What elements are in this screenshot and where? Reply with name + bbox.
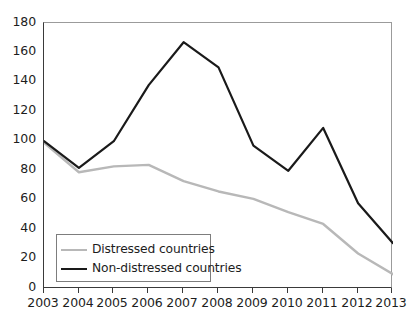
- y-tick-label: 20: [6, 251, 36, 264]
- y-tick-label: 140: [6, 74, 36, 87]
- x-tick-mark: [182, 288, 183, 293]
- x-tick-mark: [78, 288, 79, 293]
- x-tick-mark: [357, 288, 358, 293]
- series-line-non-distressed: [44, 42, 393, 243]
- x-tick-mark: [112, 288, 113, 293]
- x-tick-mark: [252, 288, 253, 293]
- chart-legend: Distressed countries Non-distressed coun…: [56, 234, 211, 282]
- x-tick-mark: [287, 288, 288, 293]
- x-tick-mark: [147, 288, 148, 293]
- legend-item-non-distressed: Non-distressed countries: [61, 259, 210, 278]
- y-axis: 180 160 140 120 100 80 60 40 20 0: [0, 0, 36, 324]
- legend-line-swatch-black-icon: [61, 268, 87, 270]
- y-tick-label: 40: [6, 222, 36, 235]
- y-tick-label: 0: [6, 281, 36, 294]
- y-tick-label: 180: [6, 16, 36, 29]
- y-tick-label: 60: [6, 192, 36, 205]
- x-tick-label: 2013: [369, 297, 411, 310]
- x-tick-mark: [391, 288, 392, 293]
- y-tick-label: 80: [6, 163, 36, 176]
- y-tick-label: 120: [6, 104, 36, 117]
- x-tick-mark: [43, 288, 44, 293]
- legend-label: Distressed countries: [92, 243, 215, 255]
- legend-line-swatch-gray-icon: [61, 249, 87, 251]
- y-tick-label: 160: [6, 45, 36, 58]
- x-tick-mark: [217, 288, 218, 293]
- plot-area: Distressed countries Non-distressed coun…: [43, 22, 392, 288]
- legend-label: Non-distressed countries: [92, 262, 241, 274]
- x-tick-mark: [322, 288, 323, 293]
- y-tick-label: 100: [6, 133, 36, 146]
- legend-item-distressed: Distressed countries: [61, 240, 210, 259]
- line-chart: 180 160 140 120 100 80 60 40 20 0 Distre…: [0, 0, 411, 324]
